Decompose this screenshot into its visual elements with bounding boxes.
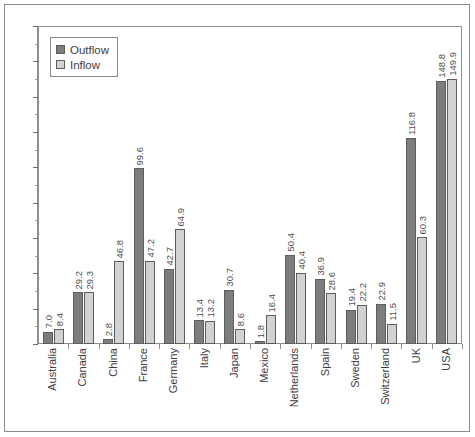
x-axis-label-australia: Australia [47, 348, 58, 391]
y-tick-major [33, 132, 38, 133]
bar-value-label: 29.3 [85, 271, 95, 290]
x-axis-label-canada: Canada [77, 348, 88, 387]
x-tick [462, 344, 463, 349]
y-tick-major [33, 344, 38, 345]
bar-value-label: 60.3 [418, 216, 428, 235]
bar-value-label: 2.8 [104, 323, 114, 336]
bar-outflow [73, 292, 83, 344]
y-tick-minor [35, 291, 38, 292]
bar-value-label: 22.9 [377, 282, 387, 301]
chart-legend: Outflow Inflow [50, 37, 118, 77]
x-axis-label-switzerland: Switzerland [380, 348, 391, 405]
bar-inflow [145, 261, 155, 344]
y-tick-minor [35, 114, 38, 115]
x-axis-label-japan: Japan [229, 348, 240, 378]
x-axis-label-china: China [108, 348, 119, 377]
bar-value-label: 22.2 [358, 283, 368, 302]
bar-inflow [114, 261, 124, 344]
bar-value-label: 148.8 [437, 54, 447, 78]
bar-inflow [447, 79, 457, 344]
bar-value-label: 1.8 [256, 325, 266, 338]
bar-inflow [387, 324, 397, 344]
x-axis-label-spain: Spain [320, 348, 331, 376]
bar-outflow [103, 339, 113, 344]
bar-outflow [376, 304, 386, 344]
bar-outflow [224, 290, 234, 344]
bar-inflow [326, 293, 336, 344]
x-axis-label-uk: UK [411, 348, 422, 363]
bar-inflow [357, 305, 367, 344]
legend-swatch-outflow [56, 45, 65, 54]
y-tick-major [33, 167, 38, 168]
legend-item-inflow: Inflow [56, 57, 109, 72]
bar-group: 36.928.6 [315, 26, 336, 344]
y-tick-major [33, 26, 38, 27]
bar-value-label: 8.6 [236, 313, 246, 326]
x-axis-category-labels: AustraliaCanadaChinaFranceGermanyItalyJa… [38, 348, 462, 428]
bar-group: 22.911.5 [376, 26, 397, 344]
bar-inflow [266, 315, 276, 344]
bar-outflow [315, 279, 325, 344]
x-axis-label-netherlands: Netherlands [289, 348, 300, 407]
y-tick-minor [35, 185, 38, 186]
bar-chart-figure: 7.08.429.229.32.846.899.647.242.764.913.… [0, 0, 475, 437]
bar-outflow [164, 269, 174, 344]
bar-inflow [296, 273, 306, 344]
bar-value-label: 46.8 [115, 240, 125, 259]
y-tick-minor [35, 256, 38, 257]
bar-group: 13.413.2 [194, 26, 215, 344]
bar-value-label: 11.5 [388, 303, 398, 321]
bar-inflow [205, 321, 215, 344]
bar-group: 99.647.2 [134, 26, 155, 344]
bar-value-label: 7.0 [44, 315, 54, 328]
bar-value-label: 116.8 [407, 112, 417, 135]
y-tick-major [33, 97, 38, 98]
y-tick-major [33, 273, 38, 274]
bar-outflow [285, 255, 295, 344]
bar-value-label: 149.9 [448, 52, 458, 76]
x-axis-label-sweden: Sweden [350, 348, 361, 388]
y-tick-major [33, 61, 38, 62]
bar-value-label: 29.2 [74, 271, 84, 290]
bar-value-label: 19.4 [347, 288, 357, 307]
bar-outflow [43, 332, 53, 344]
bar-inflow [417, 237, 427, 344]
y-tick-major [33, 238, 38, 239]
bar-outflow [134, 168, 144, 344]
bar-value-label: 8.4 [55, 313, 65, 326]
bar-value-label: 13.2 [206, 299, 216, 318]
bar-value-label: 13.4 [195, 299, 205, 318]
bar-outflow [406, 138, 416, 344]
bar-inflow [235, 329, 245, 344]
bar-outflow [194, 320, 204, 344]
bar-group: 148.8149.9 [436, 26, 457, 344]
y-tick-major [33, 203, 38, 204]
legend-label-outflow: Outflow [70, 44, 109, 56]
bar-value-label: 99.6 [135, 147, 145, 166]
y-tick-minor [35, 150, 38, 151]
x-axis-label-germany: Germany [168, 348, 179, 393]
x-axis-label-usa: USA [441, 348, 452, 371]
x-axis-label-france: France [138, 348, 149, 382]
bar-inflow [54, 329, 64, 344]
bar-inflow [84, 292, 94, 344]
bar-value-label: 30.7 [225, 268, 235, 287]
y-tick-minor [35, 44, 38, 45]
bar-value-label: 28.6 [327, 272, 337, 291]
bar-group: 1.816.4 [255, 26, 276, 344]
bar-outflow [346, 310, 356, 344]
bar-group: 116.860.3 [406, 26, 427, 344]
bar-value-label: 36.9 [316, 257, 326, 276]
legend-item-outflow: Outflow [56, 42, 109, 57]
x-axis-label-italy: Italy [199, 348, 210, 368]
bar-outflow [436, 81, 446, 344]
y-tick-minor [35, 79, 38, 80]
bar-group: 30.78.6 [224, 26, 245, 344]
bar-group: 50.440.4 [285, 26, 306, 344]
y-tick-minor [35, 220, 38, 221]
bar-value-label: 16.4 [267, 294, 277, 313]
bar-group: 19.422.2 [346, 26, 367, 344]
bar-value-label: 42.7 [165, 247, 175, 266]
y-tick-major [33, 309, 38, 310]
bar-outflow [255, 341, 265, 344]
